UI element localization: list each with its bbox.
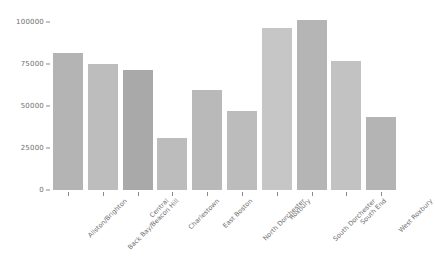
x-axis-tick-mark <box>138 192 139 196</box>
x-axis-tick-label: South End <box>349 197 350 198</box>
x-axis-tick-label: North Dorchester <box>245 197 246 198</box>
y-axis-tick-label: 100000 <box>4 18 44 26</box>
x-axis-tick-label-text: Charlestown <box>187 197 221 231</box>
x-axis-tick-mark <box>277 192 278 196</box>
bar[interactable] <box>227 111 257 190</box>
x-axis-tick-mark <box>346 192 347 196</box>
bar[interactable] <box>297 20 327 190</box>
x-axis-tick-label: Roxbury <box>280 197 281 198</box>
y-axis-tick-mark <box>46 148 50 149</box>
y-axis-tick-mark <box>46 64 50 65</box>
x-axis-tick-mark <box>242 192 243 196</box>
x-axis-tick-mark <box>207 192 208 196</box>
x-axis-tick-label: Central <box>141 197 142 198</box>
y-axis-tick-label: 75000 <box>4 60 44 68</box>
bar[interactable] <box>123 70 153 190</box>
bar[interactable] <box>53 53 83 190</box>
bar[interactable] <box>366 117 396 190</box>
x-axis-tick-label-text: Allston/Brighton <box>86 197 129 240</box>
x-axis-tick-mark <box>312 192 313 196</box>
y-axis-tick-label: 0 <box>4 186 44 194</box>
x-axis-tick-label: Back Bay/Beacon Hill <box>106 197 107 198</box>
x-axis-tick-label: East Boston <box>210 197 211 198</box>
x-axis-tick-label: Charlestown <box>175 197 176 198</box>
x-axis-tick-mark <box>103 192 104 196</box>
x-axis-tick-label-text: Back Bay/Beacon Hill <box>126 197 180 251</box>
bar[interactable] <box>157 138 187 190</box>
y-axis-tick-label: 50000 <box>4 102 44 110</box>
x-axis-tick-label: West Roxbury <box>384 197 385 198</box>
x-axis-tick-label-text: East Boston <box>221 197 254 230</box>
bar[interactable] <box>88 64 118 190</box>
bar[interactable] <box>331 61 361 190</box>
bar[interactable] <box>192 90 222 190</box>
y-axis-tick-mark <box>46 106 50 107</box>
x-axis-tick-label-text: West Roxbury <box>397 197 434 234</box>
x-axis-tick-mark <box>68 192 69 196</box>
x-axis-tick-label: Allston/Brighton <box>71 197 72 198</box>
x-axis-tick-mark <box>172 192 173 196</box>
x-axis-tick-mark <box>381 192 382 196</box>
bar[interactable] <box>262 28 292 190</box>
y-axis-tick-mark <box>46 22 50 23</box>
bar-series <box>53 0 398 190</box>
y-axis-tick-mark <box>46 190 50 191</box>
y-axis-tick-label: 25000 <box>4 144 44 152</box>
x-axis-tick-label: South Dorchester <box>315 197 316 198</box>
